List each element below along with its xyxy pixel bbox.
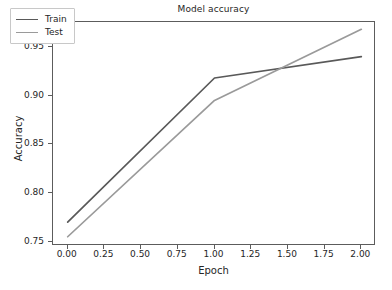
- x-tick-label: 1.50: [277, 249, 297, 259]
- chart-title: Model accuracy: [52, 4, 375, 14]
- x-tick-label: 1.25: [240, 249, 260, 259]
- legend-swatch-test: [16, 32, 38, 33]
- x-tick-label: 2.00: [350, 249, 370, 259]
- series-line-test: [68, 29, 362, 236]
- y-tick-label: 0.85: [24, 138, 44, 148]
- chart-legend: TrainTest: [10, 8, 75, 44]
- y-tick-label: 0.75: [24, 236, 44, 246]
- series-line-train: [68, 57, 362, 223]
- legend-label: Train: [45, 13, 67, 26]
- x-axis-label: Epoch: [52, 265, 375, 276]
- x-tick-label: 1.00: [203, 249, 223, 259]
- x-tick-label: 0.25: [93, 249, 113, 259]
- x-tick-label: 0.50: [130, 249, 150, 259]
- legend-item-train: Train: [16, 13, 67, 26]
- legend-label: Test: [45, 26, 63, 39]
- chart-figure: Model accuracy Accuracy Epoch 0.750.800.…: [0, 0, 392, 290]
- legend-swatch-train: [16, 19, 38, 20]
- x-tick-label: 0.75: [167, 249, 187, 259]
- x-tick-label: 1.75: [314, 249, 334, 259]
- y-axis-label: Accuracy: [13, 79, 24, 199]
- y-tick-label: 0.90: [24, 90, 44, 100]
- plot-area: [52, 21, 375, 245]
- x-tick-label: 0.00: [57, 249, 77, 259]
- plot-lines: [53, 22, 376, 246]
- legend-item-test: Test: [16, 26, 67, 39]
- y-tick-label: 0.80: [24, 187, 44, 197]
